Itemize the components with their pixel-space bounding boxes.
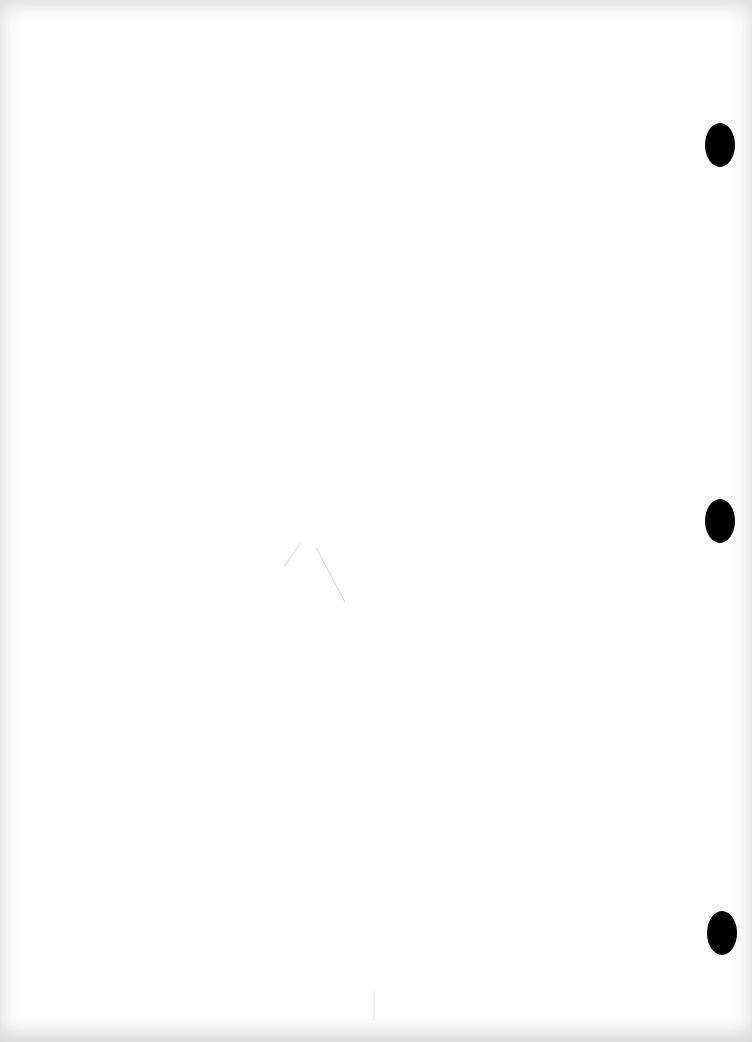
punch-hole-middle (705, 499, 735, 543)
blank-scanned-page (0, 0, 752, 1042)
faint-pencil-mark (316, 547, 346, 602)
faint-pencil-mark (284, 543, 301, 567)
page-text (0, 0, 1, 1)
punch-hole-top (705, 123, 735, 167)
punch-hole-bottom (707, 911, 737, 955)
faint-crease-mark (374, 991, 375, 1021)
